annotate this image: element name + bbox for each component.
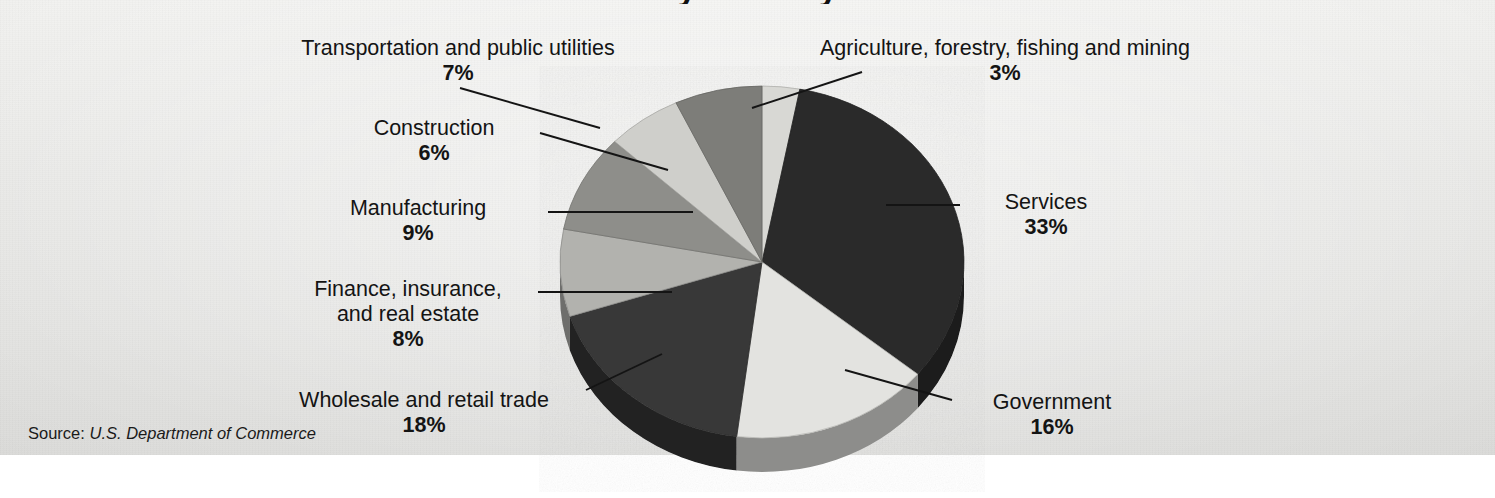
source-agency: U.S. Department of Commerce (89, 424, 316, 442)
pie-slices (560, 86, 964, 472)
label-construction: Construction 6% (330, 116, 538, 166)
source-note: Source: U.S. Department of Commerce (28, 424, 316, 443)
label-finance: Finance, insurance, and real estate 8% (282, 277, 534, 352)
label-transportation: Transportation and public utilities 7% (256, 36, 660, 86)
label-services: Services 33% (966, 190, 1126, 240)
label-agriculture: Agriculture, forestry, fishing and minin… (770, 36, 1240, 86)
figure-panel: by Industry Transportation and (0, 0, 1495, 498)
label-manufacturing: Manufacturing 9% (300, 196, 536, 246)
label-government: Government 16% (958, 390, 1146, 440)
source-prefix: Source: (28, 424, 85, 442)
